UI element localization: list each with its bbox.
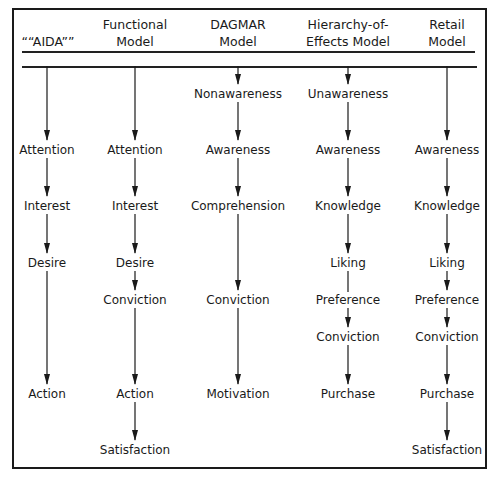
- stage-label-functional: Conviction: [103, 293, 166, 307]
- stage-label-aida: Action: [28, 387, 66, 401]
- stage-label-hierarchy: Unawareness: [308, 87, 388, 101]
- arrowhead-icon: [444, 374, 450, 385]
- stage-label-functional: Attention: [107, 143, 162, 157]
- arrowhead-icon: [444, 317, 450, 328]
- arrowhead-icon: [44, 374, 50, 385]
- stage-label-functional: Action: [116, 387, 154, 401]
- arrowhead-icon: [132, 243, 138, 254]
- stage-label-retail: Purchase: [420, 387, 475, 401]
- stage-label-retail: Conviction: [415, 330, 478, 344]
- arrowhead-icon: [444, 243, 450, 254]
- stage-label-hierarchy: Awareness: [316, 143, 380, 157]
- arrowhead-icon: [345, 243, 351, 254]
- stage-label-retail: Satisfaction: [412, 443, 482, 457]
- arrowhead-icon: [132, 430, 138, 441]
- arrowhead-icon: [235, 280, 241, 291]
- stage-label-aida: Attention: [19, 143, 74, 157]
- stage-label-dagmar: Motivation: [206, 387, 269, 401]
- stage-label-dagmar: Nonawareness: [194, 87, 282, 101]
- arrowhead-icon: [132, 186, 138, 197]
- stage-label-functional: Desire: [116, 256, 154, 270]
- arrowhead-icon: [444, 430, 450, 441]
- arrowhead-icon: [444, 280, 450, 291]
- stage-label-hierarchy: Liking: [330, 256, 366, 270]
- arrowhead-icon: [44, 243, 50, 254]
- stage-label-hierarchy: Purchase: [321, 387, 376, 401]
- arrowhead-icon: [132, 374, 138, 385]
- stage-label-hierarchy: Conviction: [316, 330, 379, 344]
- arrowhead-icon: [345, 317, 351, 328]
- arrowhead-icon: [235, 130, 241, 141]
- arrowhead-icon: [345, 186, 351, 197]
- stage-label-retail: Awareness: [415, 143, 479, 157]
- stage-label-functional: Satisfaction: [100, 443, 170, 457]
- stage-label-dagmar: Comprehension: [191, 199, 285, 213]
- stage-label-retail: Liking: [429, 256, 465, 270]
- flow-connectors: [0, 0, 499, 483]
- arrowhead-icon: [132, 130, 138, 141]
- arrowhead-icon: [345, 74, 351, 85]
- arrowhead-icon: [345, 374, 351, 385]
- arrowhead-icon: [235, 74, 241, 85]
- stage-label-retail: Knowledge: [414, 199, 480, 213]
- stage-label-functional: Interest: [112, 199, 158, 213]
- arrowhead-icon: [235, 186, 241, 197]
- stage-label-hierarchy: Knowledge: [315, 199, 381, 213]
- arrowhead-icon: [345, 130, 351, 141]
- stage-label-dagmar: Awareness: [206, 143, 270, 157]
- stage-label-dagmar: Conviction: [206, 293, 269, 307]
- stage-label-aida: Desire: [28, 256, 66, 270]
- arrowhead-icon: [132, 280, 138, 291]
- arrowhead-icon: [44, 130, 50, 141]
- arrowhead-icon: [44, 186, 50, 197]
- stage-label-hierarchy: Preference: [316, 293, 380, 307]
- arrowhead-icon: [235, 374, 241, 385]
- stage-label-retail: Preference: [415, 293, 479, 307]
- arrowhead-icon: [444, 130, 450, 141]
- arrowhead-icon: [444, 186, 450, 197]
- stage-label-aida: Interest: [24, 199, 70, 213]
